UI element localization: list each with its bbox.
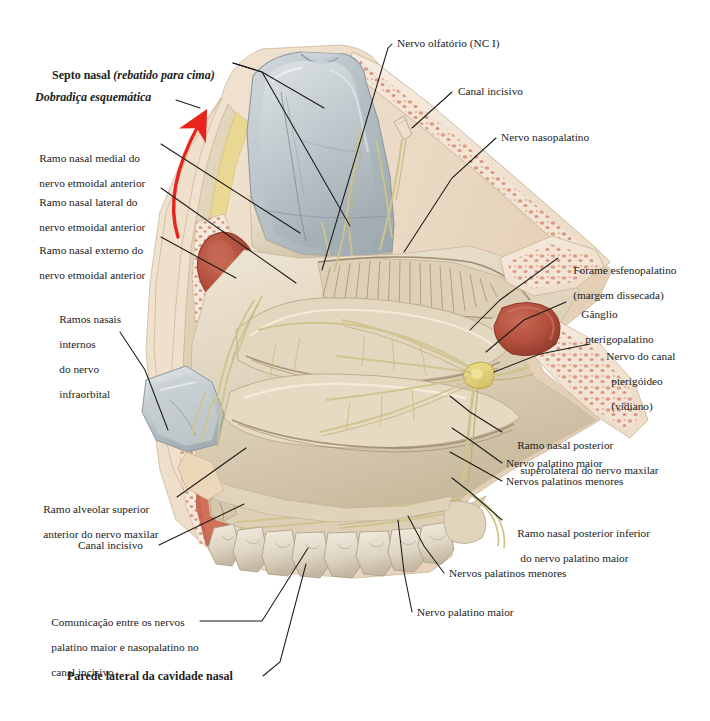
label-ramo-nasal-externo: Ramo nasal externo do nervo etmoidal ant…: [28, 231, 145, 294]
label-nervos-palatinos-menores-right: Nervos palatinos menores: [506, 475, 623, 488]
label-nervo-palatino-maior-bottom: Nervo palatino maior: [417, 606, 514, 619]
label-nervo-nasopalatino: Nervo nasopalatino: [501, 131, 589, 144]
label-nervos-palatinos-menores-bottom: Nervos palatinos menores: [449, 567, 566, 580]
label-canal-incisivo-left: Canal incisivo: [78, 539, 143, 552]
label-nervo-canal-pterigoideo: Nervo do canal pterigóideo (vidiano): [595, 337, 675, 425]
label-nervo-olfatorio: Nervo olfatório (NC I): [397, 37, 500, 50]
label-canal-incisivo-top: Canal incisivo: [458, 85, 523, 98]
label-ramos-nasais-internos: Ramos nasais internos do nervo infraorbi…: [48, 300, 121, 413]
label-nervo-palatino-maior-right: Nervo palatino maior: [506, 457, 603, 470]
figure-caption-parede-lateral: Parede lateral da cavidade nasal: [67, 670, 233, 684]
label-dobradica-esquematica: Dobradiça esquemática: [35, 91, 151, 104]
figure-canvas: Septo nasal (rebatido para cima) Dobradi…: [0, 0, 710, 721]
